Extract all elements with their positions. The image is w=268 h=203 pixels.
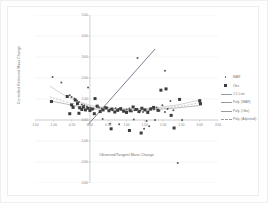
legend-label: Obs [233, 84, 239, 88]
data-point [76, 102, 79, 105]
data-point [137, 110, 140, 113]
data-point [198, 99, 201, 102]
x-tick-label: -1.00 [45, 123, 61, 127]
data-point [126, 109, 128, 111]
y-tick-label: 3.00 [74, 55, 88, 59]
data-point [99, 110, 102, 113]
legend-item[interactable]: Obs [220, 81, 266, 89]
data-point [129, 109, 132, 112]
data-point [169, 100, 171, 102]
data-point [165, 87, 168, 90]
data-point [122, 110, 125, 113]
data-point [87, 86, 89, 88]
x-axis-label: Observed/Tangent Mass Change [35, 153, 218, 157]
plot-canvas [35, 15, 218, 183]
data-point [84, 108, 87, 111]
data-point [96, 105, 99, 108]
data-point [177, 162, 179, 164]
data-point [140, 132, 143, 135]
data-point [199, 102, 202, 105]
data-point [128, 129, 131, 132]
data-point [143, 108, 146, 111]
data-point [128, 107, 130, 109]
data-point [102, 108, 105, 111]
data-point [82, 105, 85, 108]
y-tick-label: -2.00 [74, 160, 88, 164]
data-point [136, 57, 138, 59]
data-point [164, 70, 166, 72]
data-point [181, 119, 183, 121]
data-point [154, 119, 156, 121]
data-point [102, 118, 104, 120]
x-tick-label: 1.50 [137, 123, 153, 127]
data-point [143, 128, 145, 130]
data-point [116, 109, 119, 112]
y-tick-label: 1.00 [74, 97, 88, 101]
data-point [149, 108, 152, 111]
y-tick-label: 2.00 [74, 76, 88, 80]
legend-item[interactable]: Poly. (Adjusted) [220, 115, 266, 123]
data-point [170, 114, 173, 117]
y-tick-label: 5.00 [74, 13, 88, 17]
legend-label: Poly. (Adjusted) [233, 117, 256, 121]
data-point [146, 111, 149, 114]
data-point [140, 107, 143, 110]
data-point [94, 97, 97, 100]
legend-item[interactable]: 1:1 Line [220, 90, 266, 98]
data-point [71, 96, 73, 98]
data-point [133, 119, 135, 121]
data-point [152, 106, 155, 109]
data-point [146, 120, 148, 122]
data-point [50, 100, 53, 103]
data-point [110, 108, 113, 111]
x-tick-label: 0.00 [82, 123, 98, 127]
y-tick-label: -3.00 [74, 181, 88, 185]
legend-item[interactable]: MAR [220, 73, 266, 81]
data-point [52, 76, 54, 78]
data-point [132, 105, 135, 108]
data-point [60, 82, 62, 84]
x-tick-label: 2.00 [155, 123, 171, 127]
data-point [113, 111, 116, 114]
data-point [110, 127, 113, 130]
legend-item[interactable]: Poly. (MAR) [220, 98, 266, 106]
data-point [81, 103, 83, 105]
chart-legend: MARObs1:1 LinePoly. (MAR)Poly. (Obs)Poly… [220, 73, 266, 123]
data-point [69, 94, 71, 96]
data-point [159, 89, 162, 92]
data-point [93, 112, 96, 115]
data-point [178, 98, 181, 101]
x-tick-label: 2.50 [173, 123, 189, 127]
x-tick-label: -0.50 [64, 123, 80, 127]
x-tick-label: 1.00 [119, 123, 135, 127]
data-point [119, 107, 122, 110]
legend-label: Poly. (MAR) [233, 100, 251, 104]
legend-line [221, 102, 232, 103]
data-point [135, 108, 138, 111]
data-point [77, 112, 80, 115]
data-point [125, 111, 128, 114]
data-point [161, 104, 163, 106]
legend-label: MAR [233, 75, 240, 79]
x-tick-label: 3.00 [192, 123, 208, 127]
plot-area [35, 15, 218, 183]
y-tick-label: 4.00 [74, 34, 88, 38]
legend-dot-marker [225, 76, 227, 78]
data-point [91, 108, 94, 111]
legend-item[interactable]: Poly. (Obs) [220, 107, 266, 115]
data-point [164, 111, 166, 113]
trend-line [88, 49, 155, 125]
data-point [105, 106, 108, 109]
legend-line [221, 94, 232, 95]
data-point [156, 109, 159, 112]
y-axis-label: Controlled Retrieved Mass Change [17, 5, 21, 145]
x-tick-label: 3.50 [210, 123, 226, 127]
legend-line [221, 111, 232, 112]
x-tick-label: 0.50 [100, 123, 116, 127]
data-point [66, 95, 69, 98]
y-tick-label: -1.00 [74, 139, 88, 143]
data-point [156, 106, 158, 108]
data-point [172, 109, 174, 111]
legend-dashed-line [221, 119, 232, 120]
x-tick-label: -1.50 [27, 123, 43, 127]
